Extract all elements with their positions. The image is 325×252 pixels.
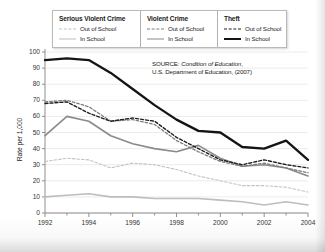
series-line-serious_violent_in bbox=[45, 194, 308, 205]
legend-entry-label: Out of School bbox=[168, 24, 204, 33]
line-swatch-solid-icon bbox=[59, 36, 76, 42]
series-line-serious_violent_out bbox=[45, 158, 308, 192]
legend-entry-label: In School bbox=[168, 34, 193, 43]
legend-title: Serious Violent Crime bbox=[59, 14, 135, 23]
legend-entry-violent-in: In School bbox=[147, 34, 212, 43]
legend-entry-violent-out: Out of School bbox=[147, 24, 212, 33]
line-swatch-dashed-icon bbox=[224, 26, 241, 32]
legend-title: Theft bbox=[224, 14, 281, 23]
line-swatch-solid-icon bbox=[147, 36, 164, 42]
series-line-theft_out bbox=[45, 102, 308, 168]
legend-entry-label: Out of School bbox=[245, 24, 281, 33]
line-swatch-dashed-icon bbox=[59, 26, 76, 32]
figure-root: Serious Violent Crime Out of School In S… bbox=[0, 0, 325, 252]
legend-title: Violent Crime bbox=[147, 14, 212, 23]
legend-entry-label: In School bbox=[80, 34, 105, 43]
legend-entry-theft-in: In School bbox=[224, 34, 281, 43]
legend-entry-label: Out of School bbox=[80, 24, 116, 33]
chart-legend: Serious Violent Crime Out of School In S… bbox=[52, 10, 287, 48]
legend-column-violent-crime: Violent Crime Out of School In School bbox=[140, 11, 217, 47]
source-line2: U.S. Department of Education, (2007) bbox=[152, 68, 252, 75]
legend-column-theft: Theft Out of School In School bbox=[217, 11, 286, 47]
source-title: Condition of Education bbox=[181, 60, 241, 67]
line-swatch-solid-icon bbox=[224, 36, 241, 42]
legend-entry-serious-violent-out: Out of School bbox=[59, 24, 135, 33]
source-prefix: SOURCE: bbox=[152, 60, 180, 67]
source-comma: , bbox=[241, 60, 243, 67]
legend-column-serious-violent-crime: Serious Violent Crime Out of School In S… bbox=[53, 11, 140, 47]
legend-entry-label: In School bbox=[245, 34, 270, 43]
source-note: SOURCE: Condition of Education, U.S. Dep… bbox=[152, 60, 317, 76]
legend-entry-theft-out: Out of School bbox=[224, 24, 281, 33]
chart-area: Rate per 1,000 0102030405060708090100 19… bbox=[0, 44, 325, 252]
legend-entry-serious-violent-in: In School bbox=[59, 34, 135, 43]
line-swatch-dashed-icon bbox=[147, 26, 164, 32]
